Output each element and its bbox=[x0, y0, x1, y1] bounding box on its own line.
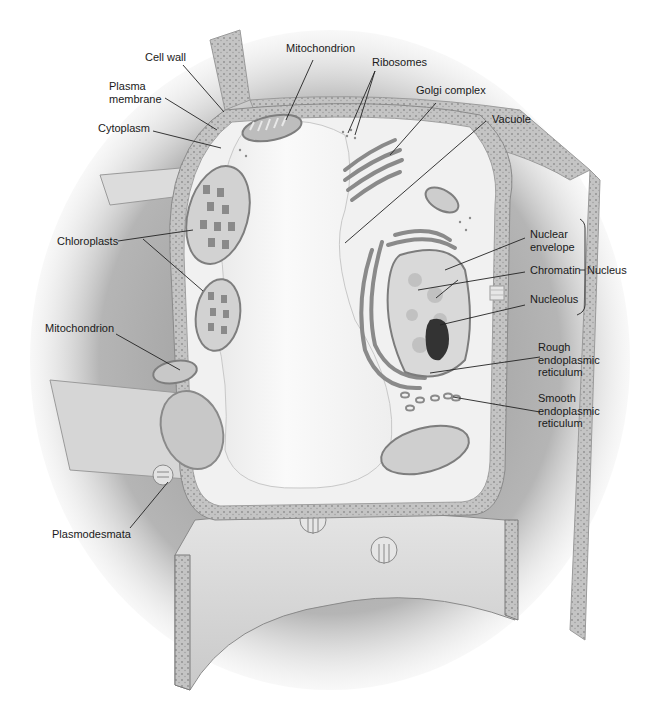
plasmodesmata-right bbox=[490, 286, 504, 300]
plasmodesmata-left bbox=[153, 465, 173, 485]
nucleus bbox=[388, 250, 470, 376]
label-chloroplasts: Chloroplasts bbox=[57, 235, 118, 248]
label-plasma-membrane: Plasma membrane bbox=[109, 80, 162, 105]
label-vacuole: Vacuole bbox=[492, 113, 531, 126]
label-golgi-complex: Golgi complex bbox=[416, 84, 486, 97]
label-cell-wall: Cell wall bbox=[145, 51, 186, 64]
label-rough-er: Rough endoplasmic reticulum bbox=[538, 341, 600, 379]
label-plasmodesmata: Plasmodesmata bbox=[52, 528, 131, 541]
label-nuclear-envelope: Nuclear envelope bbox=[530, 228, 575, 253]
label-nucleolus: Nucleolus bbox=[530, 293, 578, 306]
label-ribosomes: Ribosomes bbox=[372, 56, 427, 69]
label-mitochondrion-left: Mitochondrion bbox=[45, 322, 114, 335]
label-smooth-er: Smooth endoplasmic reticulum bbox=[538, 392, 600, 430]
label-chromatin: Chromatin bbox=[530, 264, 581, 277]
label-cytoplasm: Cytoplasm bbox=[98, 122, 150, 135]
plasmodesmata-front-2 bbox=[371, 537, 397, 564]
label-mitochondrion-top: Mitochondrion bbox=[286, 42, 355, 55]
label-nucleus: Nucleus bbox=[587, 264, 627, 277]
